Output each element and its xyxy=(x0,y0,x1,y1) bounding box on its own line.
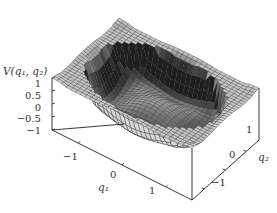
surface-mesh xyxy=(52,18,259,148)
z-tick-1: 1 xyxy=(11,79,41,89)
z-axis-title: V(q₁, q₂) xyxy=(3,66,47,77)
surface-plot xyxy=(0,0,277,213)
y-tick-0: 0 xyxy=(229,150,235,160)
z-tick-neg1: −1 xyxy=(11,126,41,136)
z-tick-neg0.5: −0.5 xyxy=(11,114,41,124)
x-tick-neg1: −1 xyxy=(63,152,78,162)
x-tick-0: 0 xyxy=(110,170,116,180)
y-axis-title: q₂ xyxy=(258,152,269,163)
x-tick-1: 1 xyxy=(149,186,155,196)
z-tick-0.5: 0.5 xyxy=(11,91,41,101)
y-tick-neg1: −1 xyxy=(211,178,226,188)
x-axis-title: q₁ xyxy=(98,182,109,193)
z-tick-0: 0 xyxy=(11,103,41,113)
y-tick-1: 1 xyxy=(246,125,252,135)
